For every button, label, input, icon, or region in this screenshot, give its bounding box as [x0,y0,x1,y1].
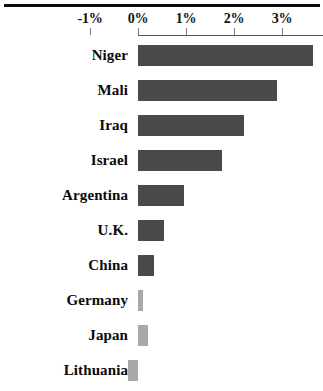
category-label-lithuania: Lithuania [0,353,128,388]
category-label-u-k: U.K. [0,213,128,248]
x-axis-baseline [138,35,323,36]
bar-lithuania [128,360,138,381]
x-tick-label-0pct: 0% [128,11,149,27]
bar-mali [138,80,277,101]
bar-row: Germany [0,283,323,318]
bar-row: Niger [0,38,323,73]
bar-japan [138,325,148,346]
bar-row: China [0,248,323,283]
category-label-mali: Mali [0,73,128,108]
bar-row: Iraq [0,108,323,143]
bar-row: Argentina [0,178,323,213]
x-tick-mark-3 [234,28,235,35]
bar-chart: -1%0%1%2%3% NigerMaliIraqIsraelArgentina… [0,0,323,391]
x-tick-mark-1 [138,28,139,35]
category-label-argentina: Argentina [0,178,128,213]
category-label-germany: Germany [0,283,128,318]
bar-iraq [138,115,244,136]
x-tick-label-neg1pct: -1% [77,11,102,27]
category-label-israel: Israel [0,143,128,178]
x-tick-label-3pct: 3% [272,11,293,27]
bar-row: U.K. [0,213,323,248]
bar-row: Japan [0,318,323,353]
category-label-japan: Japan [0,318,128,353]
bar-germany [138,290,143,311]
x-tick-label-2pct: 2% [224,11,245,27]
bar-argentina [138,185,184,206]
x-tick-mark-4 [282,28,283,35]
bar-u-k [138,220,164,241]
bar-row: Lithuania [0,353,323,388]
category-label-iraq: Iraq [0,108,128,143]
bar-niger [138,45,313,66]
category-label-niger: Niger [0,38,128,73]
category-label-china: China [0,248,128,283]
bar-china [138,255,154,276]
x-tick-label-1pct: 1% [176,11,197,27]
x-tick-mark-0 [90,28,91,35]
bar-row: Israel [0,143,323,178]
x-tick-mark-2 [186,28,187,35]
bar-row: Mali [0,73,323,108]
bar-israel [138,150,222,171]
